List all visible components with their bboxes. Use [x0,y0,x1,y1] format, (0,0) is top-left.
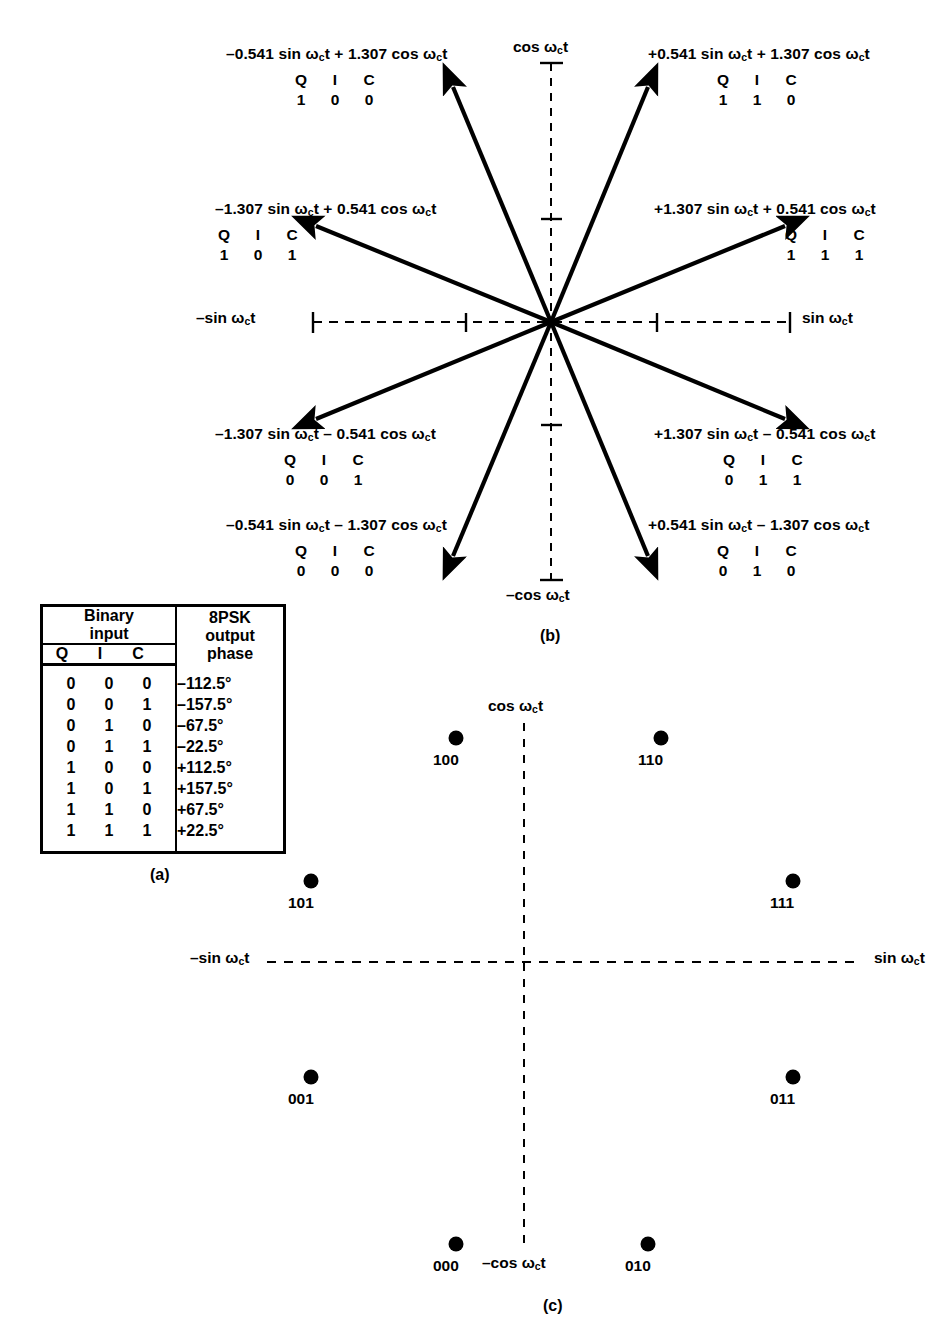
constellation-sin-axis-label: sin ωct [874,949,925,967]
constellation-neg-sin-axis-label: –sin ωct [190,949,249,967]
constellation-dot-010 [641,1237,656,1252]
constellation-neg-cos-axis-label: –cos ωct [482,1254,546,1272]
constellation-cos-axis-label: cos ωct [488,697,543,715]
constellation-points [304,731,801,1252]
caption-c: (c) [543,1297,563,1315]
constellation-label-101: 101 [288,894,314,912]
constellation-diagram-graphic [0,0,947,1337]
constellation-dot-111 [786,874,801,889]
constellation-dot-011 [786,1070,801,1085]
constellation-label-001: 001 [288,1090,314,1108]
constellation-label-010: 010 [625,1257,651,1275]
constellation-dot-110 [654,731,669,746]
constellation-dot-000 [449,1237,464,1252]
constellation-label-100: 100 [433,751,459,769]
constellation-dot-001 [304,1070,319,1085]
constellation-label-011: 011 [770,1090,795,1108]
constellation-dot-100 [449,731,464,746]
constellation-label-000: 000 [433,1257,459,1275]
constellation-label-110: 110 [638,751,663,769]
constellation-label-111: 111 [770,894,794,912]
constellation-dot-101 [304,874,319,889]
